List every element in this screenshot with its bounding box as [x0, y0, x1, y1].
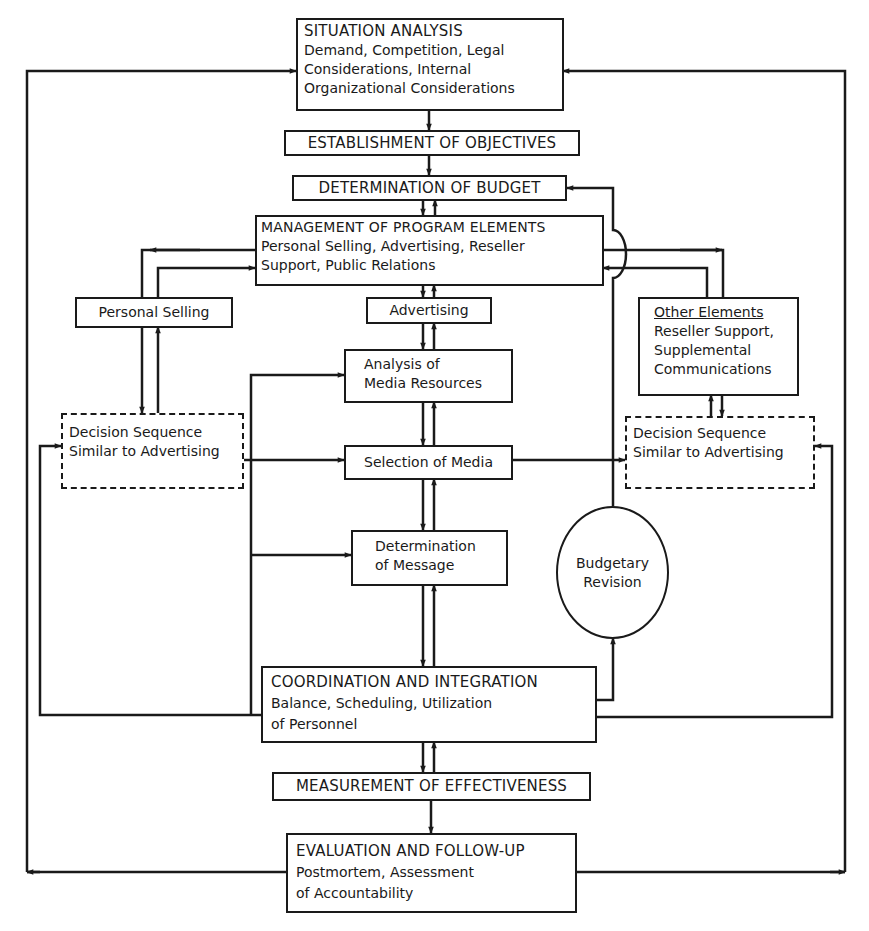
measurement-box: MEASUREMENT OF EFFECTIVENESS [272, 772, 591, 801]
other-elements-box: Other Elements Reseller Support, Supplem… [638, 297, 799, 396]
situation-analysis-box: SITUATION ANALYSIS Demand, Competition, … [296, 18, 564, 111]
decision-sequence-right-box: Decision Sequence Similar to Advertising [625, 416, 815, 489]
evaluation-line: Postmortem, Assessment [296, 862, 567, 883]
other-elements-title: Other Elements [654, 303, 783, 322]
decision-left-line: Similar to Advertising [69, 442, 236, 461]
decision-left-line: Decision Sequence [69, 423, 236, 442]
management-line: Personal Selling, Advertising, Reseller [261, 237, 598, 256]
coordination-title: COORDINATION AND INTEGRATION [271, 672, 587, 693]
advertising-box: Advertising [366, 297, 492, 324]
other-elements-line: Reseller Support, [654, 322, 783, 341]
analysis-media-line: Media Resources [364, 374, 493, 393]
selection-media-box: Selection of Media [344, 445, 513, 480]
determination-message-box: Determination of Message [351, 530, 508, 586]
advertising-title: Advertising [368, 301, 490, 320]
coordination-box: COORDINATION AND INTEGRATION Balance, Sc… [261, 666, 597, 743]
measurement-title: MEASUREMENT OF EFFECTIVENESS [274, 777, 589, 796]
personal-selling-box: Personal Selling [75, 297, 233, 328]
personal-selling-title: Personal Selling [77, 303, 231, 322]
management-box: MANAGEMENT OF PROGRAM ELEMENTS Personal … [255, 215, 604, 286]
objectives-box: ESTABLISHMENT OF OBJECTIVES [284, 130, 580, 156]
analysis-media-line: Analysis of [364, 355, 493, 374]
decision-right-line: Decision Sequence [633, 424, 807, 443]
coordination-line: of Personnel [271, 714, 587, 735]
analysis-media-box: Analysis of Media Resources [344, 349, 513, 403]
determination-message-line: Determination [375, 537, 484, 556]
situation-analysis-line: Considerations, Internal [304, 60, 556, 79]
selection-media-title: Selection of Media [346, 453, 511, 472]
determination-message-line: of Message [375, 556, 484, 575]
objectives-title: ESTABLISHMENT OF OBJECTIVES [286, 134, 578, 153]
evaluation-box: EVALUATION AND FOLLOW-UP Postmortem, Ass… [286, 833, 577, 913]
situation-analysis-title: SITUATION ANALYSIS [304, 22, 556, 41]
budgetary-revision-line: Revision [583, 573, 642, 592]
situation-analysis-line: Demand, Competition, Legal [304, 41, 556, 60]
other-elements-line: Communications [654, 360, 783, 379]
evaluation-title: EVALUATION AND FOLLOW-UP [296, 841, 567, 862]
decision-sequence-left-box: Decision Sequence Similar to Advertising [61, 413, 244, 489]
budgetary-revision-ellipse: Budgetary Revision [556, 506, 669, 639]
budget-box: DETERMINATION OF BUDGET [292, 175, 567, 201]
decision-right-line: Similar to Advertising [633, 443, 807, 462]
management-line: Support, Public Relations [261, 256, 598, 275]
budgetary-revision-line: Budgetary [576, 554, 649, 573]
budget-title: DETERMINATION OF BUDGET [294, 179, 565, 198]
evaluation-line: of Accountability [296, 883, 567, 904]
situation-analysis-line: Organizational Considerations [304, 79, 556, 98]
coordination-line: Balance, Scheduling, Utilization [271, 693, 587, 714]
other-elements-line: Supplemental [654, 341, 783, 360]
management-title: MANAGEMENT OF PROGRAM ELEMENTS [261, 218, 598, 237]
